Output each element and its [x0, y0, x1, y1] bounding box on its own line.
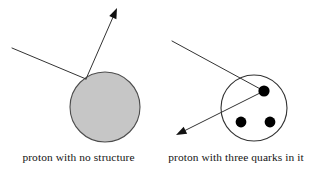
incoming-particle-ray	[12, 48, 86, 79]
diagram-canvas	[0, 0, 315, 169]
incoming-particle-ray	[172, 41, 264, 91]
arrowhead-icon	[176, 127, 187, 135]
quark-bottom-right	[265, 117, 276, 128]
right-panel-group	[172, 41, 287, 141]
scattered-particle-ray	[86, 15, 114, 79]
caption-left: proton with no structure	[0, 151, 157, 163]
arrowhead-icon	[109, 8, 117, 19]
caption-right: proton with three quarks in it	[157, 151, 315, 163]
quark-bottom-left	[236, 117, 247, 128]
proton-solid-sphere	[70, 72, 140, 142]
scattering-diagram-figure: proton with no structure proton with thr…	[0, 0, 315, 169]
left-panel-group	[12, 8, 140, 142]
quark-top	[258, 85, 269, 96]
